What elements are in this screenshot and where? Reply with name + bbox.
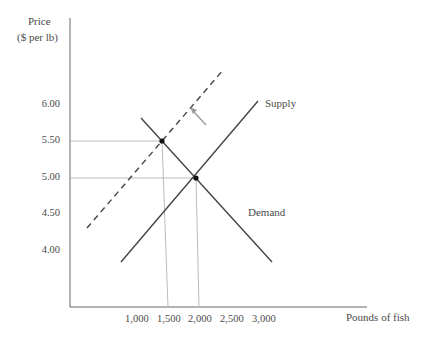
supply-curve xyxy=(121,101,258,262)
demand-label: Demand xyxy=(248,206,285,218)
x-tick-1000: 1,000 xyxy=(125,313,149,324)
equilibrium-point xyxy=(193,175,198,180)
y-tick-4.00: 4.00 xyxy=(26,244,60,255)
guide-line-qty-1500 xyxy=(162,141,168,307)
x-axis-label: Pounds of fish xyxy=(346,311,410,323)
x-tick-2500: 2,500 xyxy=(220,313,244,324)
x-tick-1500: 1,500 xyxy=(157,313,181,324)
y-tick-6.00: 6.00 xyxy=(26,98,60,109)
new-equilibrium-point xyxy=(159,138,164,143)
y-axis-label-line2: ($ per lb) xyxy=(17,31,58,43)
shifted-supply-curve xyxy=(87,69,224,228)
y-axis-label-line1: Price xyxy=(28,15,51,27)
supply-label: Supply xyxy=(265,97,296,109)
guide-line-qty-2000 xyxy=(196,178,199,307)
shift-arrow-icon xyxy=(190,107,206,125)
x-tick-3000: 3,000 xyxy=(252,313,276,324)
y-tick-5.50: 5.50 xyxy=(26,134,60,145)
chart-canvas xyxy=(0,0,425,337)
y-tick-4.50: 4.50 xyxy=(26,207,60,218)
x-tick-2000: 2,000 xyxy=(188,313,212,324)
y-tick-5.00: 5.00 xyxy=(26,171,60,182)
